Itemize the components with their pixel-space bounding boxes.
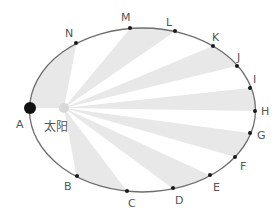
point-label-c: C [128,197,136,210]
point-label-b: B [64,180,72,193]
point-label-j: J [236,51,240,64]
point-d-icon [171,186,175,190]
point-f-icon [233,155,237,159]
point-label-a: A [16,118,24,131]
point-k-icon [211,44,215,48]
point-b-icon [75,174,79,178]
point-i-icon [248,86,252,90]
point-h-icon [253,109,257,113]
point-label-k: K [212,31,220,44]
point-j-icon [235,64,239,68]
planet-icon [24,102,36,114]
point-g-icon [248,131,252,135]
point-label-g: G [257,129,266,142]
point-label-n: N [65,27,73,40]
point-n-icon [74,41,78,45]
point-l-icon [173,29,177,33]
point-label-f: F [240,160,246,173]
point-label-m: M [121,11,131,24]
kepler-orbit-diagram: 太阳 ABCDEFGHIJKLMN [0,0,277,217]
point-c-icon [125,189,129,193]
sun-label: 太阳 [44,119,68,134]
wedge-m-l [64,28,175,108]
point-e-icon [208,173,212,177]
point-label-e: E [213,181,220,194]
point-label-i: I [253,73,256,86]
wedge-a-n [30,44,77,109]
point-label-d: D [175,194,183,207]
point-m-icon [128,26,132,30]
point-label-l: L [166,16,173,29]
sun-icon [59,103,69,113]
point-label-h: H [261,105,269,118]
